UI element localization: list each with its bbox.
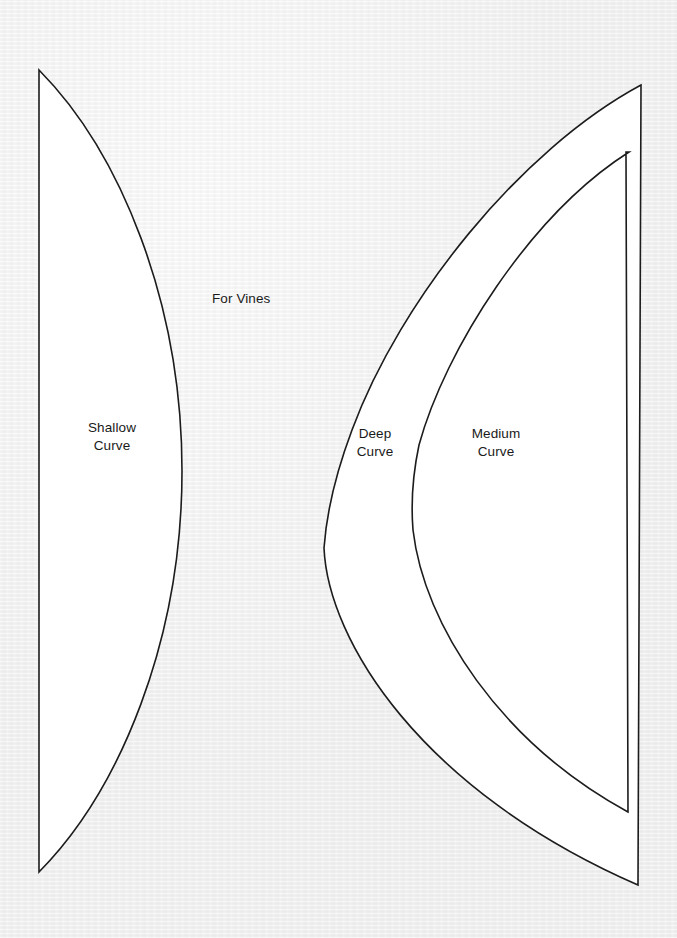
pattern-drawing (0, 0, 677, 938)
shallow-curve-shape[interactable] (39, 70, 182, 872)
page-title: For Vines (212, 290, 362, 308)
shallow-curve-label: Shallow Curve (52, 419, 172, 455)
medium-curve-label: Medium Curve (440, 425, 552, 461)
pattern-sheet: For Vines Shallow Curve Deep Curve Mediu… (0, 0, 677, 938)
deep-curve-label: Deep Curve (330, 425, 420, 461)
